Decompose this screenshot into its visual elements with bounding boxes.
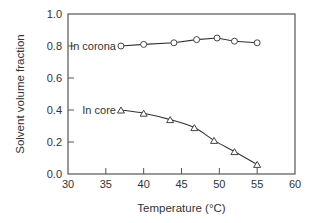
series-in-core: In core (82, 104, 260, 167)
x-tick-label: 50 (213, 178, 225, 190)
plot-frame (68, 14, 295, 174)
data-point-triangle (254, 161, 261, 167)
series-label: In core (82, 104, 116, 116)
data-point-circle (118, 43, 124, 49)
y-tick-label: 0.6 (47, 72, 62, 84)
y-tick-label: 1.0 (47, 8, 62, 20)
x-tick-label: 40 (138, 178, 150, 190)
y-axis-title: Solvent volume fraction (14, 34, 26, 154)
data-point-triangle (167, 117, 174, 123)
y-tick-label: 0.0 (47, 168, 62, 180)
data-point-circle (141, 41, 147, 47)
data-point-circle (231, 38, 237, 44)
x-axis-title: Temperature (°C) (137, 202, 225, 214)
x-tick-label: 60 (289, 178, 301, 190)
chart: 30354045505560 0.00.20.40.60.81.0 In cor… (0, 0, 315, 223)
x-tick-label: 45 (175, 178, 187, 190)
x-tick-label: 55 (251, 178, 263, 190)
y-tick-label: 0.4 (47, 104, 62, 116)
data-point-circle (194, 37, 200, 43)
plot-border (68, 14, 295, 174)
data-point-triangle (231, 149, 238, 155)
x-tick-label: 30 (62, 178, 74, 190)
data-point-circle (254, 40, 260, 46)
series-line (121, 110, 257, 164)
y-axis: 0.00.20.40.60.81.0 (47, 8, 74, 180)
series-in-corona: In corona (70, 35, 260, 52)
x-tick-label: 35 (100, 178, 112, 190)
y-tick-label: 0.8 (47, 40, 62, 52)
series-label: In corona (70, 40, 117, 52)
series-group: In coronaIn core (70, 35, 261, 167)
data-point-circle (171, 40, 177, 46)
data-point-triangle (191, 125, 198, 131)
x-axis: 30354045505560 (62, 168, 301, 190)
y-tick-label: 0.2 (47, 136, 62, 148)
data-point-circle (214, 35, 220, 41)
